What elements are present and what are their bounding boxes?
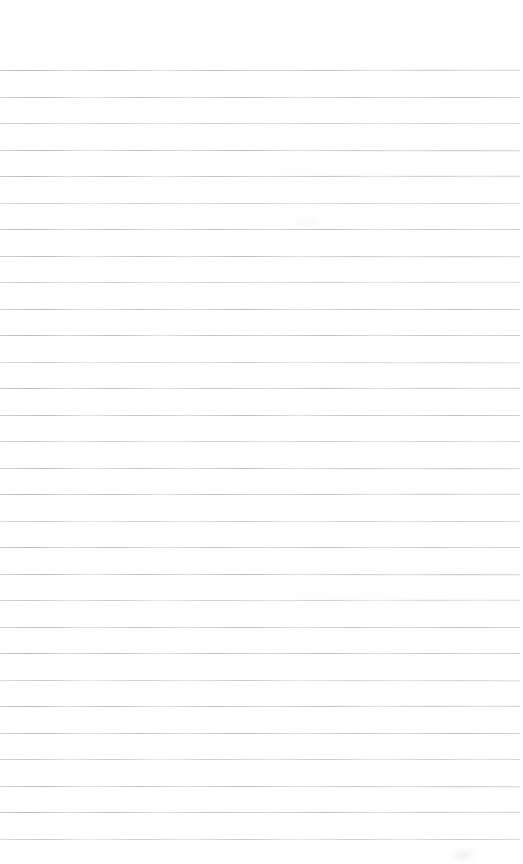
rule-line (0, 653, 520, 654)
rule-line (0, 547, 520, 548)
rule-line (0, 414, 520, 415)
rule-line (0, 202, 520, 203)
rule-line (0, 362, 520, 363)
rule-line (0, 574, 520, 575)
rule-line (0, 176, 520, 177)
rule-line (0, 96, 520, 97)
rule-line (0, 70, 520, 71)
rule-line (0, 468, 520, 469)
rule-line (0, 123, 520, 124)
rule-line (0, 441, 520, 442)
rule-line (0, 812, 520, 813)
rule-line (0, 626, 520, 627)
rule-line (0, 706, 520, 707)
ruled-lines-group (0, 0, 523, 864)
rule-line (0, 308, 520, 309)
rule-line (0, 838, 520, 839)
rule-line (0, 520, 520, 521)
rule-line (0, 150, 520, 151)
rule-line (0, 282, 520, 283)
rule-line (0, 732, 520, 733)
rule-line (0, 600, 520, 601)
scanned-page (0, 0, 523, 864)
rule-line (0, 256, 520, 257)
rule-line (0, 494, 520, 495)
rule-line (0, 388, 520, 389)
rule-line (0, 229, 520, 230)
rule-line (0, 759, 520, 760)
rule-line (0, 786, 520, 787)
rule-line (0, 335, 520, 336)
rule-line (0, 680, 520, 681)
